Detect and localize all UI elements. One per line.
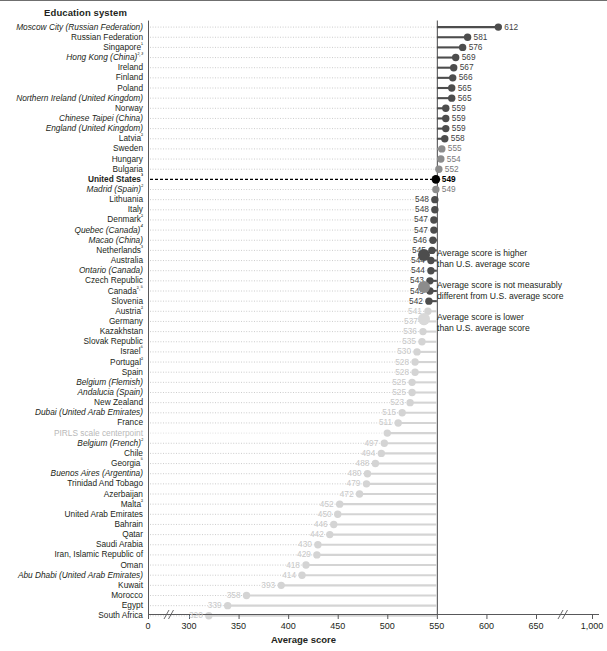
category-label: Lithuania	[109, 195, 143, 204]
row-value-dot[interactable]	[459, 44, 466, 51]
value-label: 511	[379, 418, 392, 427]
legend-item: Average score is lowerthan U.S. average …	[418, 312, 530, 333]
row-value-dot[interactable]	[432, 186, 439, 193]
row-value-dot[interactable]	[372, 460, 379, 467]
row-value-dot[interactable]	[408, 379, 415, 386]
value-label: 548	[415, 195, 429, 204]
row-value-dot[interactable]	[243, 592, 250, 599]
row-value-dot[interactable]	[394, 419, 401, 426]
row-value-dot[interactable]	[449, 74, 456, 81]
value-label: 393	[261, 580, 275, 589]
row-value-dot[interactable]	[429, 237, 436, 244]
category-label: South Africa	[98, 611, 143, 620]
row-value-dot[interactable]	[334, 511, 341, 518]
row-value-dot[interactable]	[314, 541, 321, 548]
value-label: 558	[451, 134, 465, 143]
category-label: Georgia⁵	[111, 459, 143, 468]
row-value-dot[interactable]	[298, 572, 305, 579]
row-value-dot[interactable]	[398, 409, 405, 416]
row-value-dot[interactable]	[442, 125, 449, 132]
value-label: 530	[397, 347, 411, 356]
row-value-dot[interactable]	[384, 429, 391, 436]
row-value-dot[interactable]	[435, 166, 442, 173]
category-label: Northern Ireland (United Kingdom)	[16, 93, 143, 102]
category-label: England (United Kingdom)	[46, 124, 143, 133]
row-value-dot[interactable]	[448, 84, 455, 91]
category-label: Trinidad And Tobago	[67, 479, 143, 488]
legend-dot-icon	[418, 313, 430, 325]
value-label: 525	[392, 377, 406, 386]
value-label: 559	[452, 103, 466, 112]
category-label: Latvia²	[119, 134, 143, 143]
row-value-dot[interactable]	[302, 561, 309, 568]
row-value-dot[interactable]	[363, 480, 370, 487]
row-value-dot[interactable]	[442, 115, 449, 122]
row-value-dot[interactable]	[336, 500, 343, 507]
category-label: Australia	[111, 256, 143, 265]
row-value-dot[interactable]	[406, 399, 413, 406]
row-value-dot[interactable]	[224, 602, 231, 609]
x-axis-tick-label: 500	[380, 621, 395, 631]
row-value-dot[interactable]	[442, 105, 449, 112]
row-value-dot[interactable]	[411, 369, 418, 376]
legend-dot-icon	[418, 249, 430, 261]
legend-dot-icon	[418, 281, 430, 293]
value-label: 566	[459, 73, 473, 82]
category-label: Madrid (Spain)²	[87, 185, 143, 194]
value-label: 612	[504, 22, 518, 31]
row-value-dot[interactable]	[278, 582, 285, 589]
row-value-dot[interactable]	[448, 94, 455, 101]
value-label: 581	[474, 32, 488, 41]
value-label: 549	[442, 174, 456, 183]
category-label: Iran, Islamic Republic of	[54, 550, 143, 559]
value-label: 414	[282, 570, 296, 579]
row-value-dot[interactable]	[411, 358, 418, 365]
row-value-dot[interactable]	[431, 206, 438, 213]
category-label: France	[117, 418, 143, 427]
x-axis-tick-label: 550	[429, 621, 444, 631]
category-label: Kuwait	[118, 580, 143, 589]
row-value-dot[interactable]	[438, 145, 445, 152]
category-label: PIRLS scale centerpoint	[54, 428, 143, 437]
row-value-dot[interactable]	[450, 64, 457, 71]
category-label: Belgium (French)²	[77, 438, 143, 447]
row-value-dot[interactable]	[313, 551, 320, 558]
row-value-dot[interactable]	[430, 216, 437, 223]
value-label: 576	[469, 42, 483, 51]
category-label: Chinese Taipei (China)	[59, 113, 143, 122]
row-value-dot[interactable]	[432, 175, 441, 184]
category-label: Bahrain	[114, 519, 143, 528]
row-value-dot[interactable]	[437, 155, 444, 162]
pirls-average-score-dot-chart: Education systemMoscow City (Russian Fed…	[0, 0, 607, 651]
row-value-dot[interactable]	[326, 531, 333, 538]
category-label: Oman	[120, 560, 143, 569]
row-value-dot[interactable]	[330, 521, 337, 528]
row-value-dot[interactable]	[452, 54, 459, 61]
row-value-dot[interactable]	[495, 23, 502, 30]
category-label: Canada²,⁵	[108, 286, 143, 295]
x-axis-tick-label: 350	[231, 621, 246, 631]
value-label: 446	[314, 519, 328, 528]
row-value-dot[interactable]	[364, 470, 371, 477]
value-label: 494	[361, 448, 375, 457]
row-value-dot[interactable]	[378, 450, 385, 457]
row-value-dot[interactable]	[408, 389, 415, 396]
row-value-dot[interactable]	[381, 440, 388, 447]
row-value-dot[interactable]	[356, 490, 363, 497]
legend: Average score is higherthan U.S. average…	[418, 248, 603, 343]
row-value-dot[interactable]	[464, 34, 471, 41]
row-value-dot[interactable]	[430, 226, 437, 233]
row-value-dot[interactable]	[431, 196, 438, 203]
value-label: 565	[458, 83, 472, 92]
value-label: 552	[445, 164, 459, 173]
category-label: Sweden	[113, 144, 143, 153]
value-label: 480	[348, 469, 362, 478]
category-label: Azerbaijan	[104, 489, 143, 498]
row-value-dot[interactable]	[413, 348, 420, 355]
x-axis-tick-label: 450	[330, 621, 345, 631]
category-label: Saudi Arabia	[96, 540, 143, 549]
row-value-dot[interactable]	[441, 135, 448, 142]
value-label: 559	[452, 124, 466, 133]
category-label: Norway	[115, 103, 143, 112]
row-value-dot[interactable]	[205, 612, 212, 619]
